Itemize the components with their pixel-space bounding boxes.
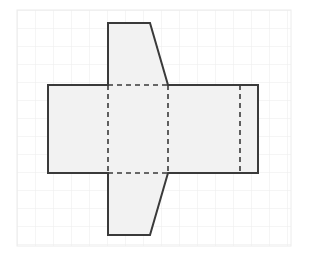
figure-svg bbox=[0, 0, 309, 264]
figure-canvas bbox=[0, 0, 309, 264]
